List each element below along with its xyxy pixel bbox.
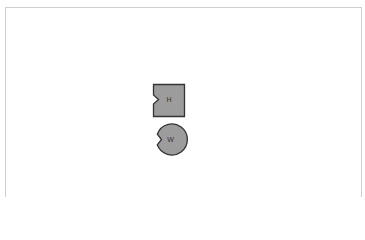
shape-h-label: H [166, 96, 171, 103]
shape-h-node[interactable]: H [154, 85, 185, 117]
shape-w-node[interactable]: W [157, 124, 187, 155]
shape-w-label: W [167, 136, 174, 143]
